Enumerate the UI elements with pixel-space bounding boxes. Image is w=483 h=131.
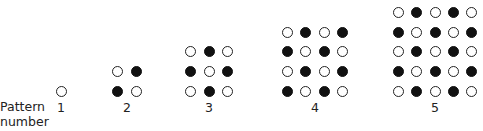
filled-circle-icon [430,66,441,77]
hollow-circle-icon [282,66,293,77]
hollow-circle-icon [393,7,404,18]
hollow-circle-icon [319,66,330,77]
pattern-number-axis-label: Pattern number [0,99,49,129]
hollow-circle-icon [448,27,459,38]
axis-label-line1: Pattern [0,99,49,114]
filled-circle-icon [448,7,459,18]
hollow-circle-icon [430,46,441,57]
filled-circle-icon [466,27,477,38]
filled-circle-icon [337,66,348,77]
filled-circle-icon [466,66,477,77]
filled-circle-icon [411,7,422,18]
axis-label-line2: number [0,114,49,129]
filled-circle-icon [300,66,311,77]
hollow-circle-icon [222,86,233,97]
pattern-number-label: 2 [117,101,137,115]
filled-circle-icon [185,66,196,77]
filled-circle-icon [319,46,330,57]
hollow-circle-icon [300,46,311,57]
filled-circle-icon [204,86,215,97]
pattern-number-label: 5 [425,101,445,115]
pattern-number-label: 1 [51,101,71,115]
pattern-number-label: 3 [199,101,219,115]
hollow-circle-icon [319,27,330,38]
filled-circle-icon [448,86,459,97]
hollow-circle-icon [204,66,215,77]
hollow-circle-icon [393,46,404,57]
hollow-circle-icon [56,86,67,97]
filled-circle-icon [319,86,330,97]
hollow-circle-icon [411,66,422,77]
hollow-circle-icon [430,86,441,97]
pattern-number-label: 4 [305,101,325,115]
filled-circle-icon [131,66,142,77]
hollow-circle-icon [448,66,459,77]
filled-circle-icon [112,86,123,97]
hollow-circle-icon [185,46,196,57]
hollow-circle-icon [430,7,441,18]
filled-circle-icon [411,46,422,57]
hollow-circle-icon [411,27,422,38]
filled-circle-icon [337,27,348,38]
filled-circle-icon [393,66,404,77]
hollow-circle-icon [131,86,142,97]
filled-circle-icon [411,86,422,97]
hollow-circle-icon [112,66,123,77]
filled-circle-icon [393,27,404,38]
hollow-circle-icon [282,27,293,38]
hollow-circle-icon [337,46,348,57]
hollow-circle-icon [300,86,311,97]
hollow-circle-icon [393,86,404,97]
hollow-circle-icon [466,86,477,97]
hollow-circle-icon [337,86,348,97]
filled-circle-icon [282,86,293,97]
filled-circle-icon [222,66,233,77]
hollow-circle-icon [222,46,233,57]
filled-circle-icon [448,46,459,57]
filled-circle-icon [430,27,441,38]
hollow-circle-icon [466,46,477,57]
filled-circle-icon [282,46,293,57]
hollow-circle-icon [185,86,196,97]
hollow-circle-icon [466,7,477,18]
filled-circle-icon [300,27,311,38]
filled-circle-icon [204,46,215,57]
